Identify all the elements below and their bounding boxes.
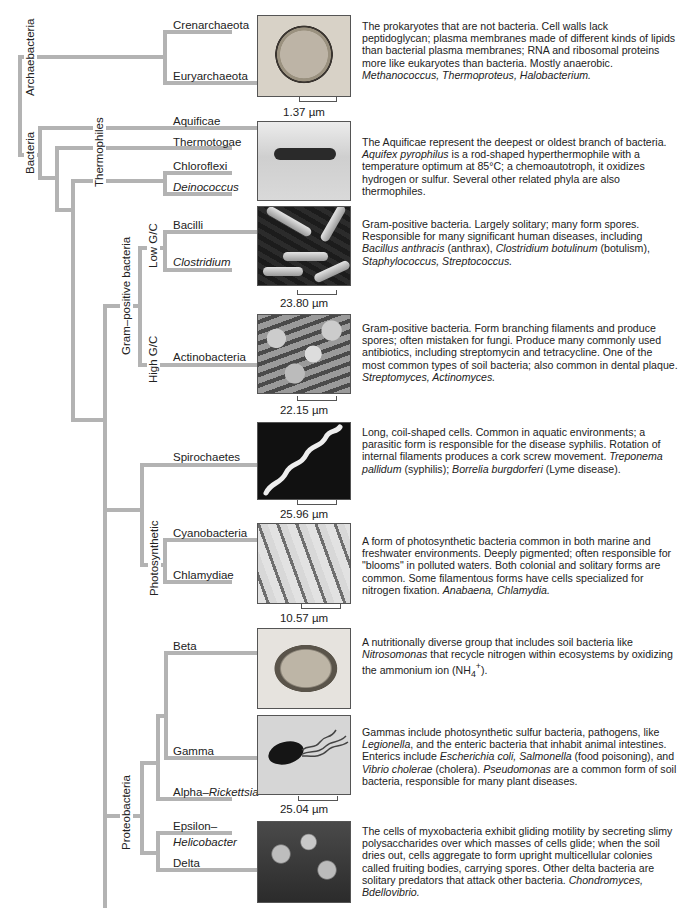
description-actinobacteria: Gram-positive bacteria. Form branching f… (362, 322, 678, 383)
group-label-low-gc: Low G/C (147, 221, 160, 270)
taxon-spirochaetes: Spirochaetes (173, 451, 240, 464)
scale-label-gamma: 25.04 µm (257, 803, 351, 815)
cyanobacteria-micrograph (257, 523, 351, 604)
scale-label-spiro: 25.96 µm (257, 508, 351, 520)
taxon-chloroflexi: Chloroflexi (173, 160, 227, 173)
scale-bar (297, 290, 337, 295)
taxon-thermotogae: Thermotogae (173, 136, 241, 149)
scale-bar (297, 500, 337, 505)
description-spirochaetes: Long, coil-shaped cells. Common in aquat… (362, 426, 678, 475)
description-archaea: The prokaryotes that are not bacteria. C… (362, 20, 678, 81)
taxon-aquificae: Aquificae (173, 115, 220, 128)
taxon-crenarchaeota: Crenarchaeota (173, 19, 249, 32)
taxon-euryarchaeota: Euryarchaeota (173, 70, 248, 83)
taxon-gamma: Gamma (173, 745, 214, 758)
taxon-deinococcus: Deinococcus (173, 181, 239, 194)
taxon-clostridium: Clostridium (173, 256, 231, 269)
archaea-micrograph (257, 15, 351, 97)
description-delta: The cells of myxobacteria exhibit glidin… (362, 825, 678, 898)
gamma-proteobacteria-micrograph (257, 715, 351, 795)
scale-bar (297, 396, 337, 401)
rod-cell (283, 252, 328, 261)
group-label-photosynthetic: Photosynthetic (148, 519, 161, 598)
taxon-beta: Beta (173, 640, 197, 653)
rod-cell (313, 259, 351, 283)
taxon-alpha-rickettsia: Alpha–Rickettsia (173, 786, 259, 799)
scale-label-actino: 22.15 µm (257, 404, 351, 416)
group-label-bacteria: Bacteria (24, 130, 37, 176)
group-label-archaebacteria: Archaebacteria (24, 17, 37, 98)
scale-bar (299, 97, 337, 102)
taxon-epsilon-prefix: Epsilon– (173, 820, 217, 833)
scale-label-bacilli: 23.80 µm (257, 297, 351, 309)
beta-proteobacteria-micrograph (257, 628, 351, 709)
taxon-alpha-genus: Rickettsia (209, 786, 259, 798)
spirochaete-micrograph (257, 422, 351, 500)
group-label-gram-positive: Gram–positive bacteria (120, 235, 133, 357)
taxon-actinobacteria: Actinobacteria (173, 351, 246, 364)
scale-bar (301, 604, 341, 609)
taxon-alpha-prefix: Alpha– (173, 786, 209, 798)
scale-bar (298, 796, 338, 801)
flagella-icon (258, 716, 351, 795)
taxon-chlamydiae: Chlamydiae (173, 569, 234, 582)
scale-label-cyano: 10.57 µm (257, 612, 351, 624)
taxon-delta: Delta (173, 857, 200, 870)
group-label-thermophiles: Thermophiles (93, 115, 106, 189)
myxobacteria-micrograph (257, 821, 351, 903)
description-beta: A nutritionally diverse group that inclu… (362, 636, 678, 680)
group-label-proteobacteria: Proteobacteria (120, 773, 133, 852)
bacilli-micrograph (257, 206, 351, 286)
scale-label-archaea: 1.37 µm (257, 106, 351, 118)
rod-cell (263, 267, 303, 276)
description-gamma: Gammas include photosynthetic sulfur bac… (362, 726, 678, 787)
spiral-cell-icon (258, 423, 351, 500)
group-label-high-gc: High G/C (147, 334, 160, 385)
description-bacilli: Gram-positive bacteria. Largely solitary… (362, 218, 678, 267)
description-cyanobacteria: A form of photosynthetic bacteria common… (362, 535, 678, 596)
taxon-bacilli: Bacilli (173, 219, 203, 232)
rod-cell (319, 206, 347, 243)
taxon-cyanobacteria: Cyanobacteria (173, 527, 247, 540)
rod-cell (265, 206, 313, 238)
aquificae-micrograph (257, 121, 351, 201)
actinobacteria-micrograph (257, 314, 351, 394)
description-aquificae: The Aquificae represent the deepest or o… (362, 136, 678, 197)
taxon-epsilon-genus: Helicobacter (173, 836, 237, 849)
